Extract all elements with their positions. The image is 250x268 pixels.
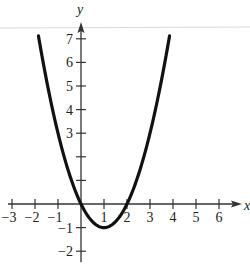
x-tick-label: 6 [216, 210, 223, 225]
y-tick-label: 4 [66, 103, 73, 118]
y-tick-label: 6 [66, 55, 73, 70]
x-axis-label: x [243, 198, 250, 213]
parabola-curve [38, 36, 169, 228]
x-tick-label: −3 [2, 210, 17, 225]
y-tick-label: 3 [66, 126, 73, 141]
x-tick-label: 5 [193, 210, 200, 225]
y-axis-label: y [75, 2, 84, 17]
x-tick-label: −2 [25, 210, 40, 225]
y-tick-label: 5 [66, 79, 73, 94]
y-tick-label: −2 [58, 244, 73, 259]
x-tick-label: 2 [124, 210, 131, 225]
y-tick-label: 7 [66, 32, 73, 47]
x-tick-label: 3 [147, 210, 154, 225]
ticks [12, 39, 219, 251]
x-tick-label: 1 [101, 210, 108, 225]
parabola-chart: −3−2−1123456−2−134567 y x [0, 0, 250, 268]
top-rule [0, 27, 250, 28]
y-tick-label: −1 [58, 221, 73, 236]
x-tick-label: 4 [170, 210, 177, 225]
